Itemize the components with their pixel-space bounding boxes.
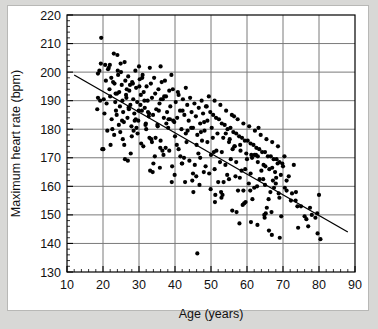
- data-point: [218, 103, 222, 107]
- data-point: [264, 137, 268, 141]
- data-point: [279, 214, 283, 218]
- data-point: [109, 76, 113, 80]
- data-point: [248, 189, 252, 193]
- data-point: [170, 164, 174, 168]
- data-point: [99, 61, 103, 65]
- data-point: [182, 156, 186, 160]
- data-point: [243, 200, 247, 204]
- data-point: [95, 107, 99, 111]
- data-point: [159, 64, 163, 68]
- data-point: [229, 157, 233, 161]
- data-point: [282, 154, 286, 158]
- data-point: [182, 113, 186, 117]
- data-point: [243, 167, 247, 171]
- data-point: [238, 176, 242, 180]
- data-point: [278, 236, 282, 240]
- data-point: [187, 159, 191, 163]
- data-point: [255, 223, 259, 227]
- data-point: [267, 228, 271, 232]
- data-point: [166, 117, 170, 121]
- data-point: [114, 109, 118, 113]
- data-point: [162, 94, 166, 98]
- data-point: [116, 69, 120, 73]
- data-point: [144, 127, 148, 131]
- data-point: [173, 134, 177, 138]
- data-point: [263, 216, 267, 220]
- data-point: [306, 224, 310, 228]
- y-tick-label: 190: [40, 94, 61, 108]
- data-point: [276, 144, 280, 148]
- data-point: [268, 190, 272, 194]
- data-point: [102, 97, 106, 101]
- data-point: [159, 97, 163, 101]
- data-point: [121, 110, 125, 114]
- data-point: [113, 100, 117, 104]
- data-point: [310, 213, 314, 217]
- data-point: [232, 114, 236, 118]
- data-point: [146, 110, 150, 114]
- data-point: [281, 164, 285, 168]
- data-point: [120, 119, 124, 123]
- x-tick-label: 30: [132, 278, 146, 292]
- data-point: [115, 53, 119, 57]
- data-point: [147, 136, 151, 140]
- data-point: [232, 144, 236, 148]
- data-point: [207, 171, 211, 175]
- data-point: [270, 140, 274, 144]
- data-point: [174, 100, 178, 104]
- data-point: [132, 111, 136, 115]
- data-point: [184, 86, 188, 90]
- data-point: [126, 159, 130, 163]
- data-point: [175, 143, 179, 147]
- data-point: [273, 170, 277, 174]
- data-point: [213, 200, 217, 204]
- data-point: [105, 101, 109, 105]
- data-point: [108, 143, 112, 147]
- x-tick-label: 70: [276, 278, 290, 292]
- data-point: [241, 189, 245, 193]
- data-point: [169, 73, 173, 77]
- data-point: [124, 93, 128, 97]
- data-point: [193, 163, 197, 167]
- data-point: [118, 104, 122, 108]
- data-point: [121, 137, 125, 141]
- data-point: [122, 143, 126, 147]
- data-point: [149, 81, 153, 85]
- data-point: [186, 129, 190, 133]
- data-point: [247, 124, 251, 128]
- data-point: [140, 76, 144, 80]
- data-point: [259, 133, 263, 137]
- data-point: [213, 167, 217, 171]
- data-point: [224, 131, 228, 135]
- data-point: [201, 111, 205, 115]
- data-point: [163, 79, 167, 83]
- data-point: [304, 217, 308, 221]
- data-point: [244, 151, 248, 155]
- data-point: [317, 193, 321, 197]
- data-point: [270, 166, 274, 170]
- data-point: [190, 179, 194, 183]
- data-point: [213, 99, 217, 103]
- data-point: [170, 180, 174, 184]
- data-point: [134, 126, 138, 130]
- data-point: [205, 104, 209, 108]
- data-point: [210, 126, 214, 130]
- data-point: [215, 131, 219, 135]
- data-point: [153, 154, 157, 158]
- data-point: [265, 206, 269, 210]
- data-point: [252, 153, 256, 157]
- data-point: [129, 124, 133, 128]
- data-point: [191, 171, 195, 175]
- data-point: [236, 189, 240, 193]
- data-point: [152, 76, 156, 80]
- y-tick-label: 210: [40, 37, 61, 51]
- data-point: [245, 157, 249, 161]
- data-point: [205, 140, 209, 144]
- data-point: [167, 149, 171, 153]
- data-point: [219, 190, 223, 194]
- data-point: [224, 109, 228, 113]
- data-point: [207, 94, 211, 98]
- data-point: [274, 176, 278, 180]
- data-point: [237, 221, 241, 225]
- x-tick-label: 10: [60, 278, 74, 292]
